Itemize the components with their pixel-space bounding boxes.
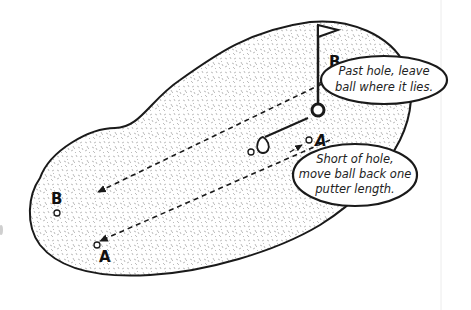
callout-past-hole: Past hole, leave ball where it lies. <box>321 56 447 104</box>
callout-short-of-hole: Short of hole, move ball back one putter… <box>293 144 417 206</box>
hole-icon <box>312 104 324 116</box>
ball-a-near <box>306 137 312 143</box>
callout-short-line2: move ball back one <box>299 167 412 181</box>
callout-past-hole-line1: Past hole, leave <box>338 64 429 78</box>
golf-green-diagram: B A B A Past hole, leave ball where it l… <box>0 0 471 310</box>
ball-b-far <box>54 210 60 216</box>
label-b-far: B <box>51 190 62 208</box>
ball-icon <box>248 149 254 155</box>
label-a-far: A <box>99 248 111 266</box>
edge-artifact <box>0 225 3 235</box>
callout-short-line1: Short of hole, <box>316 152 394 166</box>
callout-short-line3: putter length. <box>314 182 394 196</box>
callout-past-hole-line2: ball where it lies. <box>335 80 433 94</box>
